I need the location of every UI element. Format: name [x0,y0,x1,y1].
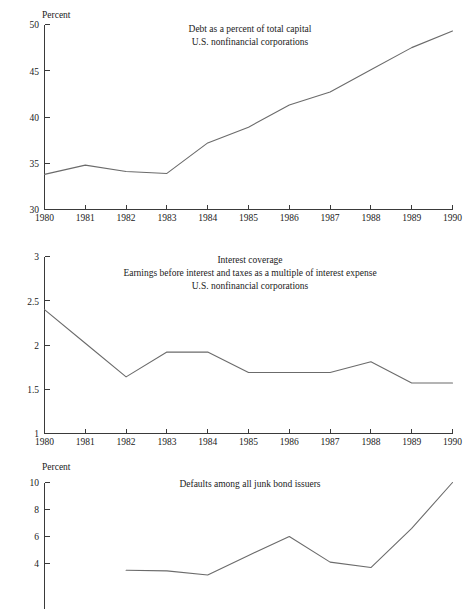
y-tick-labels-1: 50 45 40 35 30 [30,20,40,215]
y-tick-label: 45 [30,67,40,77]
x-tick-label: 1983 [157,437,176,447]
axes-3 [45,483,50,609]
chart-panel-interest-coverage: Interest coverage Earnings before intere… [0,230,475,455]
y-tick-label: 8 [34,505,39,515]
x-tick-labels-2: 1980 1981 1982 1983 1984 1985 1986 1987 … [35,437,462,447]
x-tick-labels-1: 1980 1981 1982 1983 1984 1985 1986 1987 … [35,213,462,223]
x-tick-label: 1989 [402,213,421,223]
chart-panel-debt-percent-total-capital: Percent Debt as a percent of total capit… [0,0,475,230]
chart-svg-3: Percent Defaults among all junk bond iss… [0,455,475,609]
x-tick-label: 1982 [117,437,136,447]
x-tick-label: 1984 [198,437,217,447]
x-tick-label: 1983 [157,213,176,223]
chart-title-line-1a: Debt as a percent of total capital [189,24,312,34]
chart-title-line-2a: Interest coverage [217,255,282,265]
y-tick-label: 35 [30,159,40,169]
x-tick-label: 1990 [443,213,462,223]
x-tick-label: 1984 [198,213,217,223]
y-tick-label: 40 [30,113,40,123]
x-tick-label: 1981 [76,213,95,223]
x-tick-label: 1985 [239,213,258,223]
figure-page: Percent Debt as a percent of total capit… [0,0,475,609]
axes-1 [45,25,453,210]
chart-svg-2: Interest coverage Earnings before intere… [0,230,475,455]
data-series-line-2 [45,310,453,383]
y-tick-label: 50 [30,20,40,30]
y-tick-labels-3: 10 8 6 4 [30,478,40,569]
chart-svg-1: Percent Debt as a percent of total capit… [0,0,475,230]
y-tick-label: 6 [34,532,39,542]
y-tick-label: 2 [34,341,39,351]
chart-title-line-3a: Defaults among all junk bond issuers [179,479,320,489]
y-tick-label: 2.5 [27,297,39,307]
chart-title-line-2b: Earnings before interest and taxes as a … [123,268,376,278]
x-tick-label: 1988 [361,213,380,223]
y-tick-labels-2: 3 2.5 2 1.5 1 [27,252,39,439]
x-tick-label: 1989 [402,437,421,447]
y-axis-unit-label-1: Percent [42,10,71,20]
x-ticks-2 [45,429,453,434]
x-tick-label: 1990 [443,437,462,447]
chart-panel-defaults-junk-bond-issuers: Percent Defaults among all junk bond iss… [0,455,475,609]
data-series-line-3 [126,483,452,575]
y-tick-label: 10 [30,478,40,488]
x-tick-label: 1987 [321,437,340,447]
y-tick-label: 3 [34,252,39,262]
chart-title-line-1b: U.S. nonfinancial corporations [192,37,309,47]
y-axis-unit-label-3: Percent [42,462,71,472]
x-ticks-1 [45,205,453,210]
x-tick-label: 1980 [35,213,54,223]
x-tick-label: 1985 [239,437,258,447]
y-tick-label: 1.5 [27,385,39,395]
x-tick-label: 1986 [280,437,299,447]
x-tick-label: 1987 [321,213,340,223]
x-tick-label: 1988 [361,437,380,447]
data-series-line-1 [45,31,453,174]
y-tick-label: 4 [34,559,39,569]
chart-title-line-2c: U.S. nonfinancial corporations [192,281,309,291]
x-tick-label: 1986 [280,213,299,223]
x-tick-label: 1981 [76,437,95,447]
x-tick-label: 1982 [117,213,136,223]
x-tick-label: 1980 [35,437,54,447]
